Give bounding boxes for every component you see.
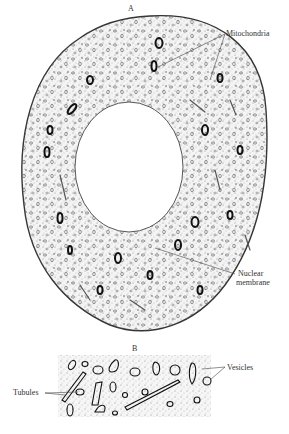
tubules-label: Tubules — [13, 388, 39, 397]
membrane-label-line2: membrane — [236, 278, 270, 287]
nuclear-label-line1: Nuclear — [238, 269, 263, 278]
panel-b-region — [45, 355, 225, 417]
nucleus — [75, 102, 183, 232]
mitochondria-label: Mitochondria — [226, 29, 270, 38]
panel-a-label: A — [128, 4, 134, 13]
panel-b-label: B — [132, 344, 137, 353]
vesicles-label: Vesicles — [227, 363, 253, 372]
